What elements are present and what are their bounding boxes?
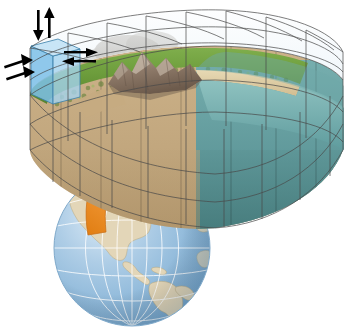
flux-arrow-up [44,7,55,38]
highlighted-grid-cell[interactable] [31,39,80,104]
flux-arrow-diagonal-in-1 [4,54,33,69]
illustration-canvas [0,0,361,328]
climate-model-figure [0,0,361,328]
flux-arrow-down [33,10,44,41]
